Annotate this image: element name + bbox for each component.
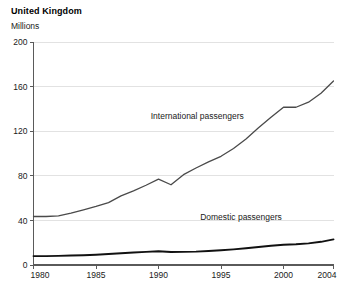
x-tick-label-1995: 1995 [212,270,231,280]
y-tick-label-40: 40 [18,216,28,226]
y-tick-label-160: 160 [13,82,27,92]
x-tick-label-1990: 1990 [149,270,168,280]
series-annotations: International passengersDomestic passeng… [151,111,282,222]
data-series [34,81,334,256]
y-tick-label-200: 200 [13,37,27,47]
y-axis-ticks: 04080120160200 [13,37,33,270]
gridlines [34,42,334,220]
series-line-domestic-passengers [34,239,334,256]
y-tick-label-120: 120 [13,126,27,136]
y-tick-label-0: 0 [23,260,28,270]
x-axis-ticks: 198019851990199520002004 [31,265,337,280]
line-chart-plot: 04080120160200 198019851990199520002004 … [0,0,349,284]
x-tick-label-2004: 2004 [318,270,337,280]
annotation-domestic-passengers: Domestic passengers [200,212,282,222]
x-tick-label-1985: 1985 [87,270,106,280]
y-tick-label-80: 80 [18,171,28,181]
chart-figure: United Kingdom Millions 04080120160200 1… [0,0,349,284]
annotation-international-passengers: International passengers [151,111,244,121]
x-tick-label-2000: 2000 [274,270,293,280]
series-line-international-passengers [34,81,334,216]
x-tick-label-1980: 1980 [31,270,50,280]
